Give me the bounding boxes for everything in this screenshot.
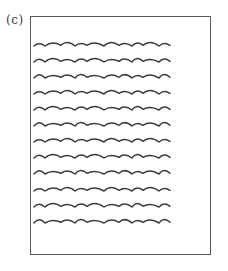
wavy-line	[34, 139, 170, 142]
wavy-line	[34, 123, 170, 126]
wavy-line	[34, 75, 170, 78]
wavy-line	[34, 204, 170, 207]
wavy-line	[34, 220, 170, 223]
wavy-line	[34, 188, 170, 191]
wavy-line	[34, 91, 170, 94]
wavy-text-lines	[0, 0, 228, 271]
wavy-line	[34, 155, 170, 158]
wavy-line	[34, 59, 170, 62]
wavy-line	[34, 171, 170, 174]
wavy-line	[34, 43, 170, 46]
wavy-line	[34, 107, 170, 110]
